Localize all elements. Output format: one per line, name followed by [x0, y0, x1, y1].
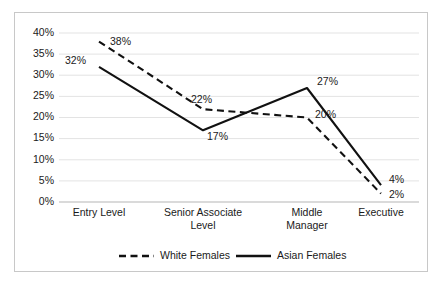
data-label-asian-entry: 32%: [65, 54, 86, 66]
y-tick-5: 5%: [39, 174, 54, 186]
y-tick-0: 0%: [39, 195, 54, 207]
data-label-white-entry: 38%: [110, 35, 131, 47]
x-tick-entry-level: Entry Level: [73, 206, 126, 218]
data-label-white-senior: 22%: [191, 93, 212, 105]
legend-item-asian-females[interactable]: Asian Females: [236, 249, 346, 261]
chart-container: 40% 35% 30% 25% 20% 15% 10% 5% 0% 38% 22…: [14, 12, 428, 272]
y-tick-25: 25%: [33, 89, 54, 101]
data-label-asian-exec: 4%: [389, 173, 404, 185]
x-axis-ticks: Entry Level Senior Associate Level Middl…: [73, 206, 404, 231]
x-tick-senior-associate-line2: Level: [190, 219, 215, 231]
legend-item-white-females[interactable]: White Females: [119, 249, 230, 261]
data-label-white-middle: 20%: [315, 108, 336, 120]
y-tick-30: 30%: [33, 68, 54, 80]
y-tick-40: 40%: [33, 26, 54, 38]
series-line-asian-females: [99, 67, 381, 185]
y-tick-15: 15%: [33, 131, 54, 143]
data-label-asian-middle: 27%: [317, 75, 338, 87]
line-chart: 40% 35% 30% 25% 20% 15% 10% 5% 0% 38% 22…: [15, 13, 427, 271]
x-tick-senior-associate-line1: Senior Associate: [164, 206, 242, 218]
legend-label-asian-females: Asian Females: [277, 249, 346, 261]
y-tick-20: 20%: [33, 110, 54, 122]
y-tick-10: 10%: [33, 153, 54, 165]
y-tick-35: 35%: [33, 47, 54, 59]
legend-label-white-females: White Females: [160, 249, 230, 261]
x-tick-middle-manager-line2: Manager: [286, 219, 328, 231]
x-tick-middle-manager-line1: Middle: [292, 206, 323, 218]
y-axis-ticks: 40% 35% 30% 25% 20% 15% 10% 5% 0%: [33, 26, 54, 207]
data-label-white-exec: 2%: [389, 188, 404, 200]
data-label-asian-senior: 17%: [207, 130, 228, 142]
x-tick-executive: Executive: [358, 206, 404, 218]
chart-legend: White Females Asian Females: [119, 249, 346, 261]
